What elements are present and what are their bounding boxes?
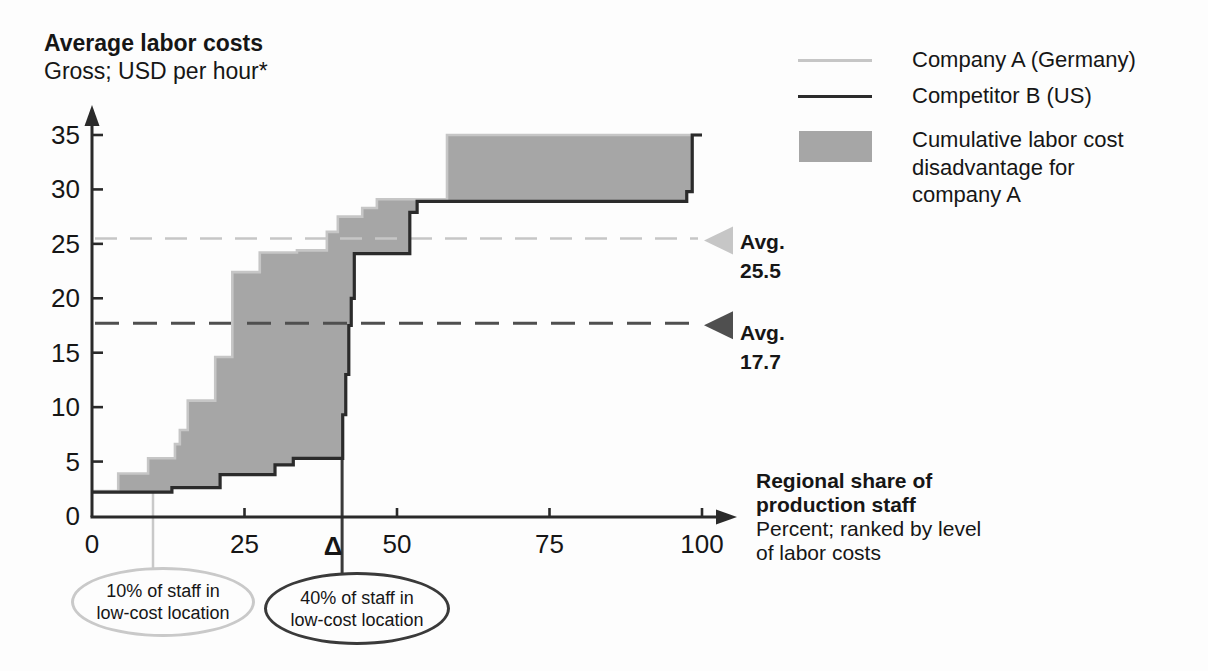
chart-title: Average labor costs [44,30,263,57]
legend-swatch-disadvantage-area [799,131,872,162]
legend-swatch-competitor-b [798,95,872,98]
avg-a-annotation: Avg. 25.5 [740,227,830,285]
scanned-chart-page: { "header": { "title": "Average labor co… [0,0,1208,671]
avg-a-label: Avg. [740,227,830,256]
y-tick-label-25: 25 [28,229,80,259]
legend-label-company-a: Company A (Germany) [912,46,1136,74]
x-axis-title: Regional share of production staff [756,469,932,517]
avg-a-triangle [704,226,733,254]
legend-swatch-company-a [798,59,872,62]
callout-40-percent-text: 40% of staff in low-cost location [290,587,423,631]
avg-b-label: Avg. [740,318,830,347]
x-tick-label-75: 75 [515,529,585,559]
y-tick-label-20: 20 [28,283,80,313]
legend-label-disadvantage-area: Cumulative labor cost disadvantage for c… [912,126,1124,209]
legend-label-competitor-b: Competitor B (US) [912,82,1092,110]
delta-symbol: Δ [318,531,348,562]
x-tick-label-25: 25 [210,529,280,559]
avg-a-value: 25.5 [740,256,830,285]
legend-item-disadvantage-area: Cumulative labor cost disadvantage for c… [798,121,1208,221]
y-tick-label-5: 5 [28,447,80,477]
y-tick-label-15: 15 [28,338,80,368]
callout-10-percent: 10% of staff in low-cost location [71,567,255,637]
y-tick-label-10: 10 [28,392,80,422]
x-tick-label-50: 50 [362,529,432,559]
y-axis-arrow [85,105,100,126]
y-tick-label-0: 0 [28,501,80,531]
callout-40-percent: 40% of staff in low-cost location [264,572,450,645]
y-tick-label-30: 30 [28,174,80,204]
y-tick-label-35: 35 [28,120,80,150]
disadvantage-area [92,135,692,492]
callout-10-percent-text: 10% of staff in low-cost location [96,580,229,624]
x-tick-label-0: 0 [57,529,127,559]
x-axis-subtitle: Percent; ranked by level of labor costs [756,517,981,565]
x-tick-label-100: 100 [667,529,737,559]
avg-b-triangle [704,311,733,339]
chart-subtitle: Gross; USD per hour* [44,58,268,85]
avg-b-annotation: Avg. 17.7 [740,318,830,376]
x-axis-arrow [716,510,737,525]
avg-b-value: 17.7 [740,347,830,376]
